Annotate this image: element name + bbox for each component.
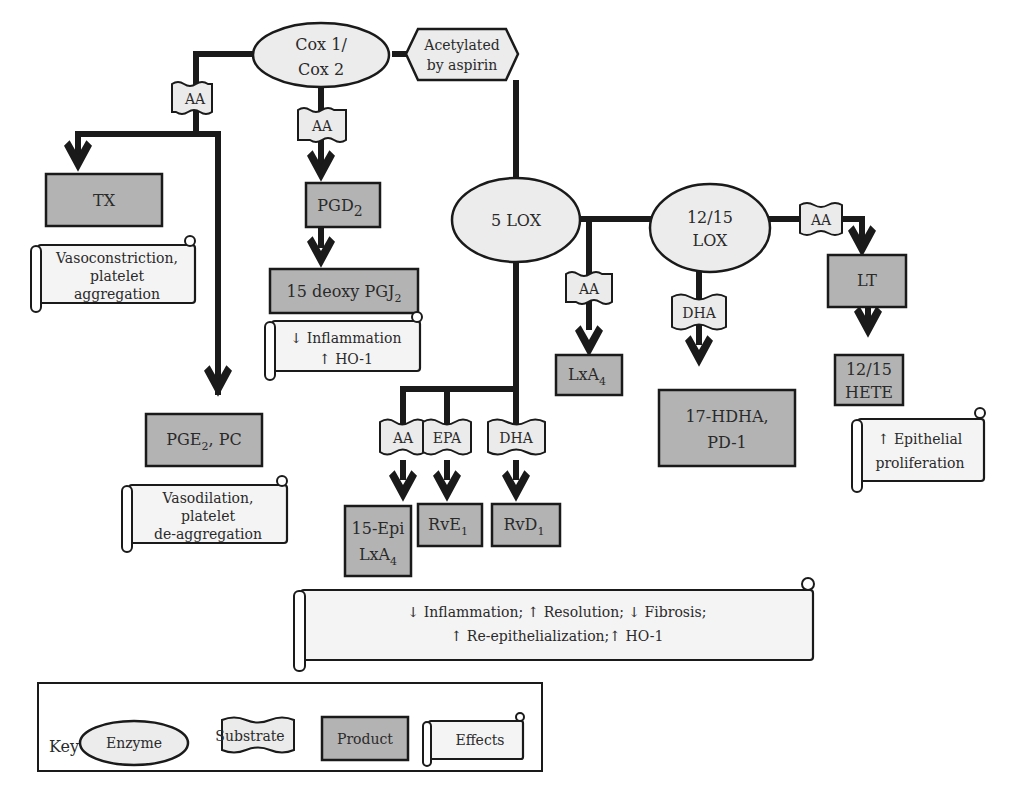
svg-text:Cox 2: Cox 2 xyxy=(298,60,344,79)
enzyme-12-15-lox: 12/15 LOX xyxy=(650,184,770,272)
svg-text:Cox 1/: Cox 1/ xyxy=(295,35,347,54)
product-rve1: RvE1 xyxy=(418,504,482,546)
substrate-aa-cox: AA xyxy=(298,108,346,142)
effect-hete-scroll: ↑ Epithelial proliferation xyxy=(852,408,985,492)
svg-text:LOX: LOX xyxy=(693,231,728,250)
svg-text:Enzyme: Enzyme xyxy=(106,735,162,751)
svg-text:12/15: 12/15 xyxy=(687,208,733,227)
svg-text:12/15: 12/15 xyxy=(846,360,892,379)
svg-text:platelet: platelet xyxy=(181,508,235,524)
legend-effects: Effects xyxy=(423,713,524,766)
product-12-15-hete: 12/15 HETE xyxy=(835,355,903,405)
substrate-aa-left: AA xyxy=(172,82,212,114)
substrate-dha-bottom: DHA xyxy=(488,420,545,455)
legend-key: Key Enzyme Substrate Product Effects xyxy=(38,683,542,771)
svg-text:DHA: DHA xyxy=(499,430,533,446)
svg-text:5 LOX: 5 LOX xyxy=(491,211,542,230)
svg-text:AA: AA xyxy=(311,118,333,134)
svg-text:LT: LT xyxy=(857,271,877,290)
substrate-aa-bottom: AA xyxy=(380,420,425,455)
svg-text:EPA: EPA xyxy=(433,430,462,446)
svg-text:Vasodilation,: Vasodilation, xyxy=(161,490,253,506)
product-15-deoxy-pgj2: 15 deoxy PGJ2 xyxy=(270,269,418,313)
svg-text:Vasoconstriction,: Vasoconstriction, xyxy=(55,250,178,266)
svg-text:TX: TX xyxy=(93,191,116,210)
substrate-epa-bottom: EPA xyxy=(423,420,471,455)
legend-title: Key xyxy=(49,737,79,756)
product-lxa4: LxA4 xyxy=(556,355,622,395)
svg-text:PD-1: PD-1 xyxy=(707,433,746,452)
effect-tx-scroll: Vasoconstriction, platelet aggregation xyxy=(31,236,195,312)
svg-text:DHA: DHA xyxy=(682,305,716,321)
modifier-acetylated-by-aspirin: Acetylated by aspirin xyxy=(406,29,518,80)
effect-pge2-scroll: Vasodilation, platelet de-aggregation xyxy=(122,476,287,552)
enzyme-5-lox: 5 LOX xyxy=(452,178,580,262)
enzyme-cox: Cox 1/ Cox 2 xyxy=(253,23,389,87)
substrate-dha-1215: DHA xyxy=(672,295,726,330)
svg-text:AA: AA xyxy=(578,281,600,297)
svg-text:Acetylated: Acetylated xyxy=(423,37,500,53)
svg-text:aggregation: aggregation xyxy=(74,286,160,302)
svg-text:↑ Epithelial: ↑ Epithelial xyxy=(878,431,963,447)
svg-text:de-aggregation: de-aggregation xyxy=(154,526,262,542)
svg-text:Substrate: Substrate xyxy=(215,728,284,744)
svg-text:15-Epi: 15-Epi xyxy=(352,519,405,538)
svg-text:Product: Product xyxy=(337,731,393,747)
svg-text:↓ Inflammation: ↓ Inflammation xyxy=(291,330,402,346)
legend-product: Product xyxy=(322,717,408,760)
product-pgd2: PGD2 xyxy=(306,183,380,227)
svg-text:17-HDHA,: 17-HDHA, xyxy=(685,407,768,426)
product-rvd1: RvD1 xyxy=(492,504,560,546)
effect-resolution-scroll: ↓ Inflammation; ↑ Resolution; ↓ Fibrosis… xyxy=(294,578,814,671)
substrate-aa-lt: AA xyxy=(800,203,842,235)
svg-text:AA: AA xyxy=(810,212,832,228)
svg-text:AA: AA xyxy=(392,430,414,446)
effect-pgj2-scroll: ↓ Inflammation ↑ HO-1 xyxy=(265,312,422,380)
substrate-aa-lxa4: AA xyxy=(566,272,612,304)
svg-text:platelet: platelet xyxy=(90,268,144,284)
svg-text:proliferation: proliferation xyxy=(875,455,964,471)
svg-text:↑ Re-epithelialization;↑ HO-1: ↑ Re-epithelialization;↑ HO-1 xyxy=(451,628,664,644)
svg-text:↓ Inflammation; ↑ Resolution;: ↓ Inflammation; ↑ Resolution; ↓ Fibrosis… xyxy=(408,604,707,620)
product-15-epi-lxa4: 15-Epi LxA4 xyxy=(345,506,411,576)
legend-enzyme: Enzyme xyxy=(80,721,188,765)
svg-text:by aspirin: by aspirin xyxy=(427,57,497,73)
svg-text:Effects: Effects xyxy=(455,732,504,748)
product-tx: TX xyxy=(46,174,162,226)
legend-substrate: Substrate xyxy=(215,718,294,753)
product-17-hdha-pd1: 17-HDHA, PD-1 xyxy=(659,390,795,466)
svg-text:HETE: HETE xyxy=(845,383,893,402)
aspirin-lipid-mediator-pathway-diagram: Cox 1/ Cox 2 5 LOX 12/15 LOX Acetylated … xyxy=(0,0,1009,795)
product-lt: LT xyxy=(828,255,906,307)
svg-text:↑ HO-1: ↑ HO-1 xyxy=(319,351,373,367)
svg-text:AA: AA xyxy=(184,91,206,107)
product-pge2-pc: PGE2, PC xyxy=(146,414,262,466)
